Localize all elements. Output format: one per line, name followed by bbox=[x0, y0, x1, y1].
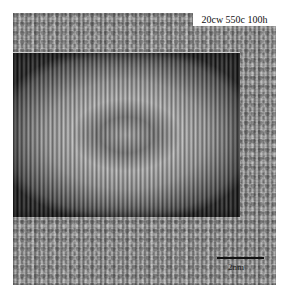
sample-label: 20cw 550c 100h bbox=[193, 13, 276, 26]
scale-bar-label: 2nm bbox=[228, 262, 244, 272]
scale-bar bbox=[217, 257, 264, 259]
filtered-lattice-inset bbox=[13, 52, 240, 217]
